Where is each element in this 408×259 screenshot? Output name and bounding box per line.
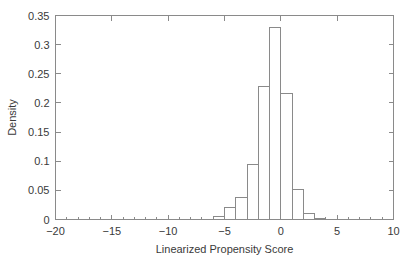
chart-canvas: −20−15−10−5051000.050.10.150.20.250.30.3… — [0, 0, 408, 259]
x-tick-label: 0 — [278, 225, 284, 237]
y-tick-label: 0.1 — [34, 155, 49, 167]
y-tick-label: 0.15 — [28, 126, 49, 138]
histogram-bar — [281, 93, 292, 219]
histogram-bar — [258, 86, 269, 219]
plot-box — [56, 16, 394, 220]
x-tick-label: −20 — [46, 225, 65, 237]
y-tick-label: 0.2 — [34, 97, 49, 109]
histogram-bar — [247, 165, 258, 220]
y-tick-label: 0.35 — [28, 10, 49, 22]
x-axis-title: Linearized Propensity Score — [156, 243, 294, 255]
y-tick-label: 0 — [43, 214, 49, 226]
y-tick-label: 0.3 — [34, 39, 49, 51]
histogram-bar — [270, 28, 281, 220]
x-tick-label: 10 — [387, 225, 399, 237]
x-tick-label: −15 — [102, 225, 121, 237]
y-axis-title: Density — [6, 99, 18, 136]
y-tick-label: 0.05 — [28, 184, 49, 196]
x-tick-label: −5 — [218, 225, 231, 237]
x-tick-label: 5 — [334, 225, 340, 237]
x-tick-label: −10 — [159, 225, 178, 237]
histogram-bar — [225, 207, 236, 219]
y-tick-label: 0.25 — [28, 68, 49, 80]
histogram-bar — [236, 198, 247, 220]
histogram-bar — [303, 214, 314, 220]
histogram-bar — [292, 189, 303, 219]
histogram-figure: −20−15−10−5051000.050.10.150.20.250.30.3… — [0, 0, 408, 259]
